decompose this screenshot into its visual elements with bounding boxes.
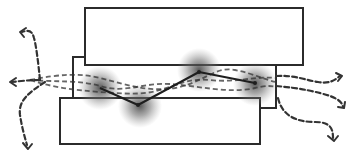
hotspot-2 <box>118 84 162 128</box>
path-vertex-1 <box>136 103 140 107</box>
layered-flow-diagram <box>0 0 357 162</box>
arrow-left-down <box>20 82 45 149</box>
arrow-left-mid <box>10 78 40 86</box>
dashed-arrow-shaft <box>12 80 40 82</box>
dashed-arrow-shaft <box>20 82 45 145</box>
dashed-arrow-shaft <box>278 98 333 138</box>
dashed-arrow-shaft <box>276 76 340 83</box>
diagram-canvas <box>0 0 357 162</box>
arrow-right-down <box>278 98 338 141</box>
arrow-right-mid <box>276 86 345 108</box>
dashed-arrow-shaft <box>276 86 343 107</box>
path-vertex-2 <box>197 70 201 74</box>
dashed-arrow-shaft <box>22 31 40 80</box>
path-vertex-3 <box>253 81 257 85</box>
arrow-left-up <box>20 28 40 80</box>
arrow-right-up <box>276 73 342 83</box>
